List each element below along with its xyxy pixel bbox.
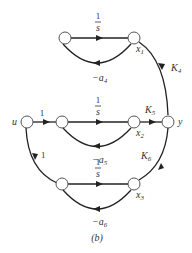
k4-label: K4 [170,62,182,75]
node-top-left [59,32,71,44]
arrow-icon [96,35,103,41]
mid-forward-num: 1 [96,95,101,105]
arrow-icon [96,119,103,125]
bot-forward-den: s [96,168,100,179]
arrow-icon [93,143,100,149]
k5-label: K5 [144,104,156,117]
signal-flow-graph: 1 s −a4 x1 K4 1 1 s −a5 K5 u x2 y 1 1 s … [0,0,192,253]
arrow-icon [93,206,100,212]
x3-label: x3 [135,189,144,202]
arrow-icon [93,60,100,66]
arrow-icon [96,181,103,187]
edge-mid-feedback [63,128,131,147]
mid-forward-den: s [96,106,100,117]
arrow-icon [43,119,50,125]
top-forward-den: s [96,22,100,33]
arrow-icon [158,163,164,170]
edge-top-feedback [63,44,131,63]
k6-label: K6 [140,150,152,163]
arrow-icon [149,119,156,125]
u-label: u [12,116,17,127]
top-forward-num: 1 [96,11,101,21]
node-u [21,116,33,128]
mid-input-gain: 1 [40,108,45,118]
bot-feedback-label: −a6 [92,216,108,229]
bot-forward-num: 1 [96,157,101,167]
bot-input-gain: 1 [41,150,46,160]
x2-label: x2 [135,127,144,140]
edge-bot-feedback [63,190,131,209]
figure-caption: (b) [91,232,103,244]
node-mid-left [56,116,68,128]
y-label: y [177,116,183,127]
node-y [162,116,174,128]
top-feedback-label: −a4 [92,72,108,85]
node-bot-left [56,178,68,190]
